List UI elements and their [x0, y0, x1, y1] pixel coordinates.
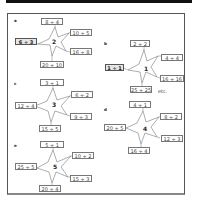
expression-upper-right: 10 ÷ 5 — [70, 29, 92, 36]
expression-lower-right: 12 ÷ 3 — [161, 135, 183, 142]
panel-a: a 2 8 ÷ 4 10 ÷ 5 6 ÷ 3 16 ÷ 8 20 ÷ 10 — [0, 0, 100, 70]
panel-b: b 1 2 ÷ 2 4 ÷ 4 1 ÷ 1 16 ÷ 16 25 ÷ 25 et… — [100, 30, 198, 100]
expression-bottom: 25 ÷ 25 — [130, 86, 152, 93]
expression-left: 25 ÷ 5 — [15, 163, 37, 170]
panel-d: d 4 4 ÷ 1 8 ÷ 2 20 ÷ 5 12 ÷ 3 16 ÷ 4 — [100, 95, 198, 165]
star-center-value: 3 — [52, 101, 56, 108]
expression-top: 2 ÷ 2 — [130, 40, 150, 47]
expression-top: 3 ÷ 1 — [40, 79, 64, 86]
expression-lower-right: 16 ÷ 8 — [70, 48, 92, 55]
expression-lower-right: 15 ÷ 3 — [70, 175, 92, 182]
etc-note: etc. — [158, 88, 167, 94]
expression-lower-right: 16 ÷ 16 — [160, 75, 184, 82]
star-center-value: 1 — [144, 65, 148, 72]
expression-top: 8 ÷ 4 — [41, 18, 63, 25]
panel-e: e 5 5 ÷ 1 10 ÷ 2 25 ÷ 5 15 ÷ 3 20 ÷ 4 — [0, 135, 100, 207]
expression-bottom: 20 ÷ 4 — [39, 185, 61, 192]
panel-c: c 3 3 ÷ 1 6 ÷ 2 12 ÷ 4 9 ÷ 3 15 ÷ 5 — [0, 70, 100, 140]
expression-bottom: 20 ÷ 10 — [40, 61, 64, 68]
expression-given: 6 ÷ 3 — [15, 38, 37, 45]
star-center-value: 2 — [52, 38, 56, 45]
expression-bottom: 15 ÷ 5 — [39, 125, 61, 132]
star-center-value: 4 — [143, 125, 147, 132]
expression-top: 5 ÷ 1 — [40, 141, 64, 148]
expression-left: 20 ÷ 5 — [104, 124, 126, 131]
expression-lower-right: 9 ÷ 3 — [70, 113, 92, 120]
star-center-value: 5 — [53, 163, 57, 170]
expression-left: 12 ÷ 4 — [15, 102, 37, 109]
expression-upper-right: 4 ÷ 4 — [161, 54, 183, 61]
expression-upper-right: 10 ÷ 2 — [72, 152, 94, 159]
expression-upper-right: 8 ÷ 2 — [160, 113, 182, 120]
expression-given: 1 ÷ 1 — [105, 64, 124, 71]
expression-bottom: 16 ÷ 4 — [128, 147, 150, 154]
expression-upper-right: 6 ÷ 2 — [71, 91, 93, 98]
expression-top: 4 ÷ 1 — [129, 101, 151, 108]
